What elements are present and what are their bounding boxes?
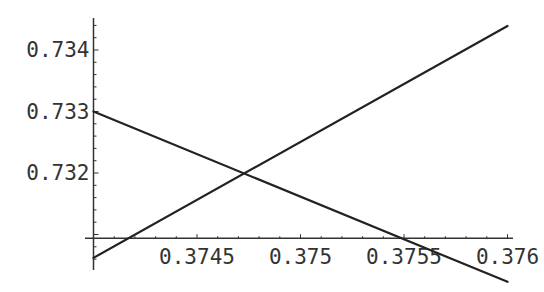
y-tick-label: 0.732 (26, 161, 89, 185)
x-tick-label: 0.376 (476, 245, 539, 269)
chart: 0.37450.3750.37550.3760.7320.7330.734 (0, 0, 544, 292)
x-tick-label: 0.375 (269, 245, 332, 269)
x-tick-label: 0.3755 (366, 245, 442, 269)
x-tick-label: 0.3745 (159, 245, 235, 269)
series-lines (94, 26, 508, 282)
y-tick-label: 0.733 (26, 100, 89, 124)
y-tick-label: 0.734 (26, 38, 89, 62)
tick-labels: 0.37450.3750.37550.3760.7320.7330.734 (26, 38, 539, 269)
series-line-rising (94, 26, 508, 258)
